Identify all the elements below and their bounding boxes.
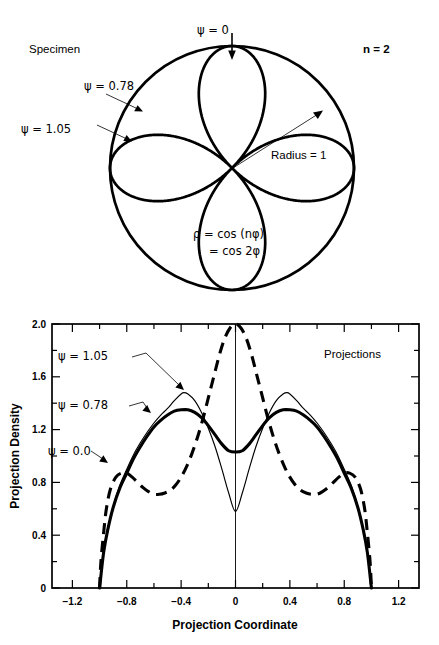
y-tick-label: 0.4: [32, 530, 46, 541]
x-axis-title: Projection Coordinate: [172, 618, 298, 632]
projections-panel: −1.2−0.8−0.400.40.81.2 00.40.81.21.62.0: [0, 318, 439, 645]
figure-root: Specimen n = 2 ψ = 0 ψ = 0.78 ψ = 1.05 R…: [0, 0, 439, 645]
y-tick-label: 0: [40, 583, 46, 594]
n-value-label: n = 2: [363, 43, 390, 55]
rose-equation-line2: = cos 2φ: [209, 244, 260, 258]
y-tick-label: 2.0: [32, 319, 46, 330]
psi-105-annotation-leader: [132, 353, 184, 390]
psi-zero-label: ψ = 0: [197, 23, 229, 37]
specimen-svg: Specimen n = 2 ψ = 0 ψ = 0.78 ψ = 1.05 R…: [0, 0, 439, 318]
legend-psi-078: ψ = 0.78: [58, 398, 108, 412]
y-axis-tick-labels: 00.40.81.21.62.0: [32, 319, 46, 594]
projections-title: Projections: [324, 348, 381, 360]
projections-svg: −1.2−0.8−0.400.40.81.2 00.40.81.21.62.0: [0, 318, 439, 645]
psi-105-label-specimen: ψ = 1.05: [21, 122, 71, 136]
x-tick-label: −0.4: [171, 596, 191, 607]
x-tick-label: 0.4: [283, 596, 297, 607]
y-tick-label: 1.2: [32, 424, 46, 435]
x-tick-label: 1.2: [392, 596, 406, 607]
y-axis-title: Projection Density: [8, 403, 22, 509]
psi-078-annotation-leader: [129, 402, 151, 413]
radius-label: Radius = 1: [271, 149, 326, 161]
rose-equation-line1: ρ = cos (nφ): [193, 227, 264, 241]
specimen-title: Specimen: [29, 43, 80, 55]
y-tick-label: 1.6: [32, 371, 46, 382]
legend-psi-105: ψ = 1.05: [58, 349, 108, 363]
x-tick-label: −0.8: [117, 596, 137, 607]
specimen-panel: Specimen n = 2 ψ = 0 ψ = 0.78 ψ = 1.05 R…: [0, 0, 439, 318]
legend-psi-000: ψ = 0.0: [48, 444, 91, 458]
y-tick-label: 0.8: [32, 477, 46, 488]
psi-000-annotation-leader: [91, 451, 108, 463]
x-tick-label: 0.8: [337, 596, 351, 607]
x-tick-label: 0: [233, 596, 239, 607]
x-tick-label: −1.2: [63, 596, 83, 607]
x-axis-tick-labels: −1.2−0.8−0.400.40.81.2: [63, 596, 406, 607]
psi-078-label-specimen: ψ = 0.78: [84, 79, 134, 93]
